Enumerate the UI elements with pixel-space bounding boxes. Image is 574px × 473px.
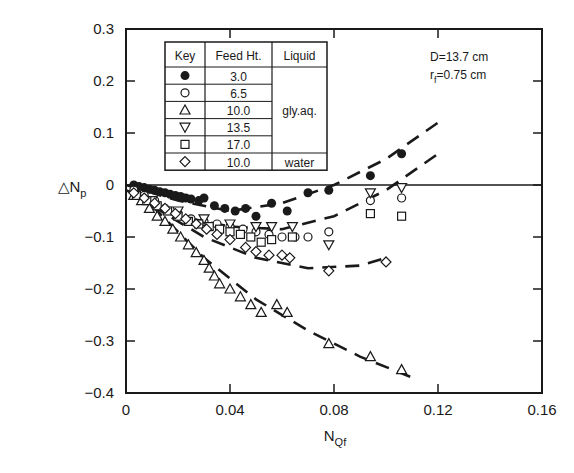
filled-circle-marker bbox=[397, 149, 406, 158]
x-tick-label: 0.16 bbox=[527, 401, 556, 418]
y-tick-label: 0.3 bbox=[93, 20, 114, 37]
chart-figure: 0.30.20.10−0.1−0.2−0.3−0.400.040.080.120… bbox=[0, 0, 574, 473]
triangle-up-marker bbox=[282, 307, 292, 316]
triangle-down-marker bbox=[397, 184, 407, 193]
fit-curve bbox=[152, 206, 412, 378]
square-marker bbox=[257, 238, 265, 246]
diamond-marker bbox=[251, 247, 261, 257]
filled-circle-marker bbox=[267, 199, 276, 208]
y-tick-label: −0.2 bbox=[84, 280, 114, 297]
square-marker bbox=[288, 233, 296, 241]
legend-header: Key bbox=[175, 49, 196, 63]
legend-feed-ht: 13.5 bbox=[227, 121, 251, 135]
triangle-down-marker bbox=[324, 241, 334, 250]
filled-circle-marker bbox=[231, 207, 240, 216]
filled-circle-marker bbox=[187, 195, 196, 204]
annotation-radius: rf=0.75 cm bbox=[430, 68, 486, 85]
filled-circle-marker bbox=[220, 204, 229, 213]
filled-circle-marker bbox=[241, 204, 250, 213]
triangle-up-marker bbox=[272, 300, 282, 309]
square-marker bbox=[247, 233, 255, 241]
triangle-up-marker bbox=[256, 307, 266, 316]
x-tick-label: 0.08 bbox=[319, 401, 348, 418]
legend-table: KeyFeed Ht.Liquid3.06.510.013.517.010.0g… bbox=[165, 42, 327, 170]
y-tick-label: −0.3 bbox=[84, 332, 114, 349]
legend-feed-ht: 6.5 bbox=[230, 87, 247, 101]
legend-feed-ht: 3.0 bbox=[230, 70, 247, 84]
open-circle-marker bbox=[398, 194, 406, 202]
y-tick-label: 0.2 bbox=[93, 72, 114, 89]
x-tick-label: 0 bbox=[122, 401, 130, 418]
open-circle-marker bbox=[278, 233, 286, 241]
filled-circle-marker bbox=[200, 194, 209, 203]
legend-feed-ht: 17.0 bbox=[227, 138, 251, 152]
filled-circle-marker bbox=[324, 186, 333, 195]
legend-liquid: water bbox=[284, 156, 314, 170]
y-tick-label: −0.4 bbox=[84, 384, 114, 401]
legend-feed-ht: 10.0 bbox=[227, 156, 251, 170]
filled-circle-marker bbox=[181, 71, 190, 80]
square-marker bbox=[398, 212, 406, 220]
y-tick-label: −0.1 bbox=[84, 228, 114, 245]
square-marker bbox=[366, 210, 374, 218]
annotation-diameter: D=13.7 cm bbox=[430, 50, 488, 64]
filled-circle-marker bbox=[304, 188, 313, 197]
square-marker bbox=[236, 230, 244, 238]
triangle-up-marker bbox=[225, 284, 235, 293]
triangle-up-marker bbox=[397, 365, 407, 374]
y-tick-label: 0.1 bbox=[93, 124, 114, 141]
legend-feed-ht: 10.0 bbox=[227, 104, 251, 118]
square-marker bbox=[181, 140, 189, 148]
y-tick-label: 0 bbox=[106, 176, 114, 193]
filled-circle-marker bbox=[366, 171, 375, 180]
square-marker bbox=[268, 236, 276, 244]
legend-liquid: gly.aq. bbox=[282, 104, 316, 118]
legend-header: Feed Ht. bbox=[215, 49, 261, 63]
diamond-marker bbox=[381, 257, 391, 267]
triangle-up-marker bbox=[365, 352, 375, 361]
x-tick-label: 0.04 bbox=[215, 401, 244, 418]
x-tick-label: 0.12 bbox=[423, 401, 452, 418]
triangle-up-marker bbox=[246, 300, 256, 309]
x-axis-label: NQf bbox=[324, 427, 347, 448]
open-circle-marker bbox=[325, 228, 333, 236]
filled-circle-marker bbox=[283, 207, 292, 216]
legend-header: Liquid bbox=[283, 49, 315, 63]
annotations: D=13.7 cmrf=0.75 cm bbox=[430, 50, 488, 85]
open-circle-marker bbox=[304, 233, 312, 241]
triangle-up-marker bbox=[235, 292, 245, 301]
y-axis-label: △Np bbox=[58, 178, 87, 199]
filled-circle-marker bbox=[210, 201, 219, 210]
filled-circle-marker bbox=[252, 212, 261, 221]
open-circle-marker bbox=[181, 89, 189, 97]
